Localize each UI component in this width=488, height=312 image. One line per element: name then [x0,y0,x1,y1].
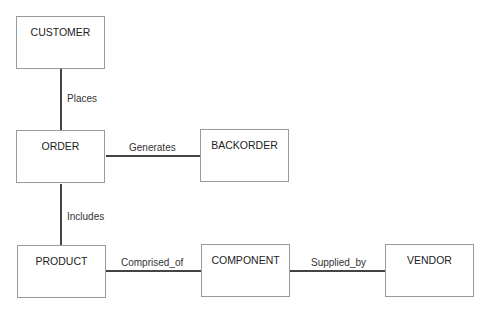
connector-comprised-of [106,270,201,272]
entity-customer: CUSTOMER [16,16,105,69]
relationship-label-includes: Includes [67,211,104,222]
entity-vendor: VENDOR [385,244,474,297]
entity-component: COMPONENT [201,244,290,297]
entity-order: ORDER [16,130,105,183]
entity-label: COMPONENT [202,254,289,266]
entity-label: PRODUCT [18,255,105,267]
relationship-label-generates: Generates [129,142,176,153]
entity-product: PRODUCT [17,245,106,298]
relationship-label-places: Places [67,93,97,104]
entity-label: VENDOR [386,254,473,266]
connector-places [60,69,62,130]
relationship-label-supplied-by: Supplied_by [311,257,366,268]
connector-generates [106,155,201,157]
entity-label: CUSTOMER [17,26,104,38]
entity-label: ORDER [17,140,104,152]
entity-backorder: BACKORDER [200,129,289,182]
connector-supplied-by [290,270,385,272]
relationship-label-comprised-of: Comprised_of [121,257,183,268]
entity-label: BACKORDER [201,139,288,151]
connector-includes [60,184,62,245]
